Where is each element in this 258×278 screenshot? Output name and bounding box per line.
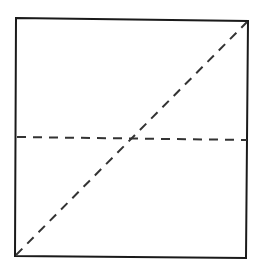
square-diagram <box>0 0 258 278</box>
